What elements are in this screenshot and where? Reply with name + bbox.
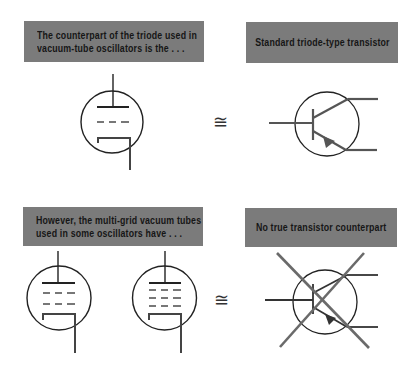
- transistor-icon: [269, 92, 378, 156]
- triode-tube-icon: [81, 74, 143, 170]
- schematic-diagram: [0, 0, 419, 369]
- crossed-transistor-icon: [265, 253, 378, 348]
- pentode-tube-icon: [133, 251, 197, 353]
- tetrode-tube-icon: [27, 251, 91, 353]
